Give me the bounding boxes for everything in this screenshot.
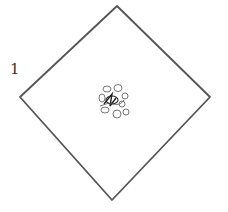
sketch-canvas: 1 [0,0,228,212]
figure-label: 1 [10,60,20,78]
diamond-sketch [0,0,228,212]
center-scribble-icon [99,85,129,119]
